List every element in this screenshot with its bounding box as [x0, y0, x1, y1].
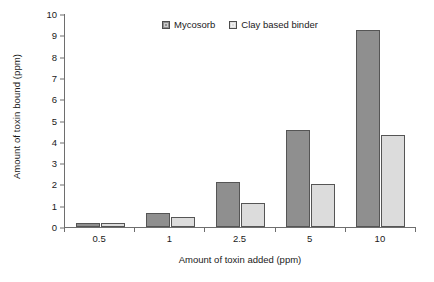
bar[interactable] — [216, 182, 240, 227]
bar[interactable] — [146, 213, 170, 227]
y-axis-title-text: Amount of toxin bound (ppm) — [12, 53, 23, 178]
x-axis-tick-mark — [134, 228, 135, 232]
bar[interactable] — [356, 30, 380, 227]
y-axis-tick-label: 10 — [46, 10, 57, 20]
bar[interactable] — [241, 203, 265, 227]
y-axis-tick-labels: 012345678910 — [30, 14, 60, 228]
bar[interactable] — [101, 223, 125, 227]
y-axis-tick-label: 2 — [52, 181, 57, 191]
x-axis-tick-label: 0.5 — [92, 234, 105, 244]
bar[interactable] — [171, 217, 195, 227]
bar[interactable] — [381, 135, 405, 227]
y-axis-tick-label: 8 — [52, 53, 57, 63]
x-axis-tick-label: 5 — [307, 234, 312, 244]
bars-layer — [65, 14, 416, 227]
y-axis-tick-label: 3 — [52, 159, 57, 169]
y-axis-tick-label: 9 — [52, 32, 57, 42]
x-axis-tick-mark — [275, 228, 276, 232]
bar[interactable] — [76, 223, 100, 227]
bar-group — [346, 14, 416, 227]
bar-chart-figure: Amount of toxin bound (ppm) 012345678910… — [0, 0, 434, 282]
y-axis-tick-label: 5 — [52, 117, 57, 127]
x-axis-tick-mark — [415, 228, 416, 232]
bar-group — [276, 14, 346, 227]
y-axis-tick-label: 6 — [52, 95, 57, 105]
y-axis-tick-label: 0 — [52, 223, 57, 233]
x-axis-tick-mark — [64, 228, 65, 232]
y-axis-title: Amount of toxin bound (ppm) — [6, 0, 28, 232]
x-axis-tick-labels: 0.512.5510 — [64, 234, 416, 248]
y-axis-tick-label: 7 — [52, 74, 57, 84]
x-axis-tick-label: 2.5 — [233, 234, 246, 244]
bar[interactable] — [311, 184, 335, 227]
y-axis-tick-label: 1 — [52, 202, 57, 212]
bar-group — [65, 14, 135, 227]
x-axis-tick-mark — [345, 228, 346, 232]
plot-area: MycosorbClay based binder — [64, 14, 416, 228]
y-axis-tick-label: 4 — [52, 138, 57, 148]
x-axis-tick-mark — [204, 228, 205, 232]
bar[interactable] — [286, 130, 310, 227]
bar-group — [135, 14, 205, 227]
bar-group — [205, 14, 275, 227]
x-axis-title: Amount of toxin added (ppm) — [64, 254, 416, 265]
x-axis-tick-label: 1 — [167, 234, 172, 244]
x-axis-tick-label: 10 — [375, 234, 386, 244]
